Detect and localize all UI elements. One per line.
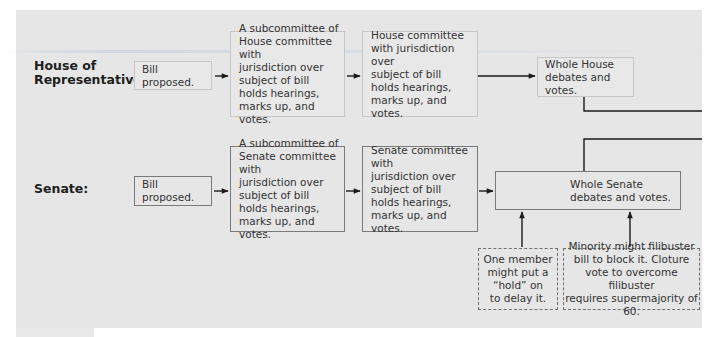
connectors [0, 0, 717, 337]
house-exit-line [584, 97, 702, 111]
senate-exit-line [584, 139, 702, 171]
